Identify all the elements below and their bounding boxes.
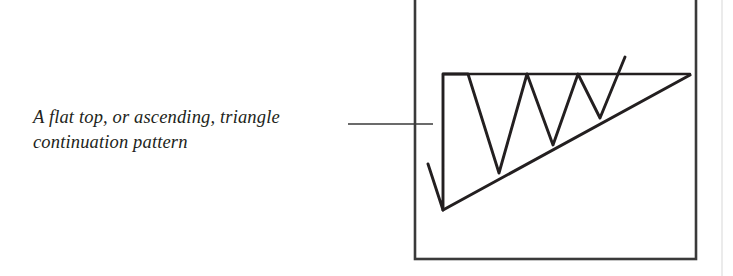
figure-page: A flat top, or ascending, triangle conti… bbox=[0, 0, 733, 276]
triangle-pattern-figure bbox=[0, 0, 733, 276]
figure-frame bbox=[415, 0, 696, 259]
price-zigzag-line bbox=[428, 57, 625, 210]
rising-support-trendline bbox=[443, 75, 690, 210]
